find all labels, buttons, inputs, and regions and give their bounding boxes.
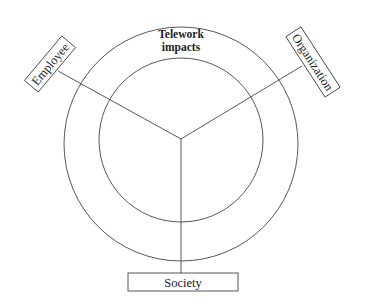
diagram-title-line1: Telework bbox=[158, 28, 204, 40]
organization-label: Organization bbox=[289, 31, 337, 94]
spoke-employee bbox=[58, 71, 181, 139]
employee-label: Employee bbox=[29, 40, 73, 88]
society-label: Society bbox=[164, 276, 202, 290]
node-organization: Organization bbox=[286, 27, 340, 97]
spoke-organization bbox=[181, 66, 302, 139]
node-society: Society bbox=[128, 273, 238, 291]
diagram-title-line2: impacts bbox=[162, 41, 201, 54]
telework-impacts-diagram: Telework impacts Employee Organization S… bbox=[0, 0, 365, 306]
node-employee: Employee bbox=[24, 36, 75, 92]
